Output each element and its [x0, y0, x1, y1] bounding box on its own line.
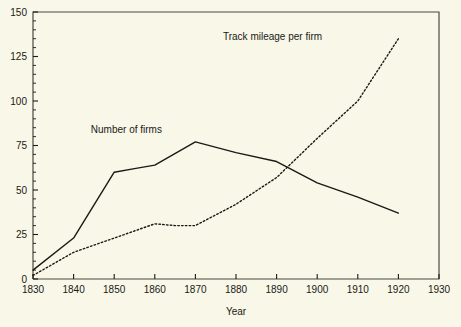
y-tick-label: 125 — [10, 51, 27, 62]
line-chart: 1830184018501860187018801890190019101920… — [0, 0, 461, 327]
x-tick-label: 1900 — [306, 284, 329, 295]
x-tick-label: 1920 — [387, 284, 410, 295]
y-tick-label: 100 — [10, 96, 27, 107]
y-tick-label: 25 — [16, 229, 28, 240]
x-tick-label: 1870 — [184, 284, 207, 295]
x-tick-label: 1850 — [103, 284, 126, 295]
x-tick-label: 1930 — [428, 284, 451, 295]
data-series — [33, 39, 398, 276]
plot-frame — [33, 12, 439, 279]
x-tick-label: 1830 — [22, 284, 45, 295]
x-tick-label: 1880 — [225, 284, 248, 295]
series-line — [33, 142, 398, 270]
series-label: Track mileage per firm — [223, 31, 322, 42]
x-tick-label: 1840 — [62, 284, 85, 295]
series-label: Number of firms — [91, 124, 162, 135]
x-tick-labels: 1830184018501860187018801890190019101920… — [22, 284, 451, 295]
y-axis-ticks — [33, 12, 38, 279]
x-axis-ticks — [33, 274, 439, 279]
series-annotations: Number of firmsTrack mileage per firm — [91, 31, 322, 135]
y-tick-labels: 0255075100125150 — [10, 7, 27, 285]
x-tick-label: 1860 — [144, 284, 167, 295]
y-tick-label: 50 — [16, 185, 28, 196]
x-tick-label: 1890 — [265, 284, 288, 295]
x-tick-label: 1910 — [347, 284, 370, 295]
y-tick-label: 75 — [16, 140, 28, 151]
chart-figure: 1830184018501860187018801890190019101920… — [0, 0, 461, 327]
y-tick-label: 150 — [10, 7, 27, 18]
series-line — [33, 39, 398, 276]
x-axis-title: Year — [226, 306, 247, 317]
y-tick-label: 0 — [21, 274, 27, 285]
